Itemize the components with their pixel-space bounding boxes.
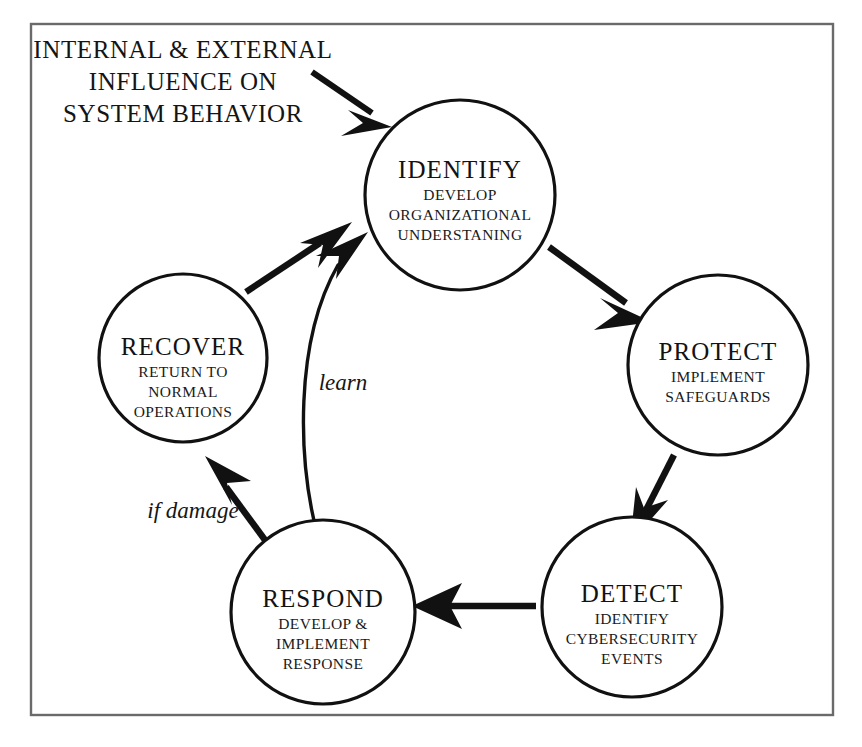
respond-title: RESPOND [262,585,384,612]
identify-sub-3: UNDERSTANING [398,226,523,243]
detect-circle[interactable] [542,517,722,697]
protect-sub-2: SAFEGUARDS [665,388,771,405]
detect-sub-3: EVENTS [601,650,663,667]
identify-sub-1: DEVELOP [423,186,496,203]
framework-cycle-svg: INTERNAL & EXTERNAL INFLUENCE ON SYSTEM … [0,0,862,747]
cybersecurity-framework-diagram: INTERNAL & EXTERNAL INFLUENCE ON SYSTEM … [0,0,862,747]
recover-sub-2: NORMAL [148,383,218,400]
respond-sub-2: IMPLEMENT [276,635,370,652]
identify-title: IDENTIFY [398,156,522,183]
header-line-1: INTERNAL & EXTERNAL [33,36,332,63]
protect-sub-1: IMPLEMENT [671,368,765,385]
respond-circle[interactable] [231,520,415,704]
node-recover[interactable]: RECOVER RETURN TO NORMAL OPERATIONS [99,274,267,442]
detect-sub-1: IDENTIFY [595,610,670,627]
node-protect[interactable]: PROTECT IMPLEMENT SAFEGUARDS [628,275,808,455]
recover-title: RECOVER [121,333,245,360]
header-line-2: INFLUENCE ON [89,68,277,95]
respond-sub-3: RESPONSE [283,655,364,672]
learn-label: learn [319,370,368,395]
respond-sub-1: DEVELOP & [278,615,368,632]
detect-title: DETECT [581,580,683,607]
protect-title: PROTECT [659,338,778,365]
node-respond[interactable]: RESPOND DEVELOP & IMPLEMENT RESPONSE [231,520,415,704]
detect-sub-2: CYBERSECURITY [566,630,699,647]
node-detect[interactable]: DETECT IDENTIFY CYBERSECURITY EVENTS [542,517,722,697]
identify-sub-2: ORGANIZATIONAL [389,206,532,223]
header-line-3: SYSTEM BEHAVIOR [63,100,303,127]
recover-sub-1: RETURN TO [138,363,228,380]
node-identify[interactable]: IDENTIFY DEVELOP ORGANIZATIONAL UNDERSTA… [365,100,555,290]
protect-circle[interactable] [628,275,808,455]
if-damage-label: if damage [147,498,238,523]
recover-sub-3: OPERATIONS [134,403,233,420]
